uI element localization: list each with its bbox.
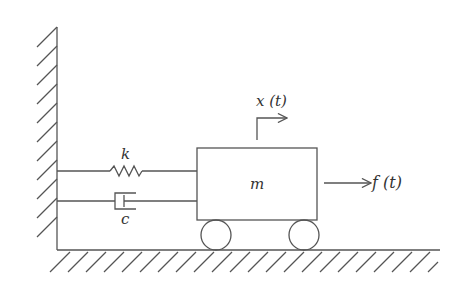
mass-label: m: [250, 175, 264, 193]
displacement-arrow-icon: [257, 118, 287, 140]
floor: [50, 250, 440, 272]
mass-spring-damper-diagram: k c m x (t) f (t): [0, 0, 464, 296]
wall: [37, 27, 57, 250]
wheel-right: [289, 220, 319, 250]
spring-label: k: [121, 145, 130, 163]
displacement-label: x (t): [256, 92, 287, 110]
wheel-left: [201, 220, 231, 250]
damper-label: c: [121, 210, 130, 228]
force-label: f (t): [371, 173, 402, 192]
spring: [57, 166, 197, 176]
damper: [57, 193, 197, 209]
